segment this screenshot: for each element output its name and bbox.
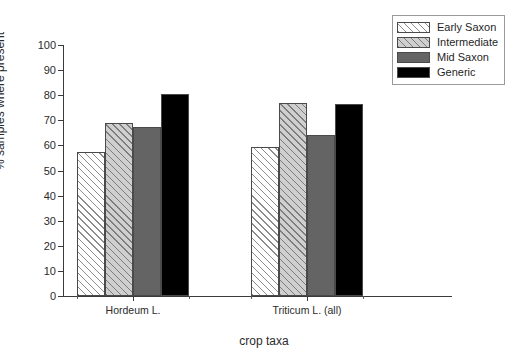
y-axis-title: % samples where present	[0, 32, 7, 170]
legend-swatch-generic	[397, 67, 430, 78]
x-axis-tick	[133, 296, 134, 301]
legend-item-generic: Generic	[397, 65, 498, 80]
bar-hordeum-l-early-saxon	[77, 152, 105, 296]
legend-swatch-early-saxon	[397, 22, 430, 33]
bar-triticum-l-all-early-saxon	[251, 147, 279, 296]
x-axis-minor-tick	[189, 296, 190, 299]
y-tick-label: 10	[44, 265, 56, 276]
x-axis-minor-tick	[77, 296, 78, 299]
legend-item-mid-saxon: Mid Saxon	[397, 50, 498, 65]
bar-hordeum-l-generic	[161, 94, 189, 296]
chart-legend: Early SaxonIntermediateMid SaxonGeneric	[392, 15, 505, 85]
y-tick-mark	[58, 296, 63, 297]
y-tick-mark	[58, 45, 63, 46]
x-axis-title: crop taxa	[0, 334, 528, 348]
legend-label: Intermediate	[437, 37, 498, 48]
x-axis-line	[63, 296, 452, 297]
y-tick-label: 40	[44, 190, 56, 201]
y-tick-mark	[58, 271, 63, 272]
legend-label: Generic	[437, 67, 476, 78]
bar-triticum-l-all-mid-saxon	[307, 135, 335, 296]
y-tick-label: 60	[44, 140, 56, 151]
bar-triticum-l-all-generic	[335, 104, 363, 296]
x-axis-category-label: Hordeum L.	[106, 304, 161, 316]
y-tick-mark	[58, 221, 63, 222]
legend-swatch-mid-saxon	[397, 52, 430, 63]
legend-item-early-saxon: Early Saxon	[397, 20, 498, 35]
x-axis-category-label: Triticum L. (all)	[272, 304, 341, 316]
bar-hordeum-l-intermediate	[105, 123, 133, 296]
y-tick-mark	[58, 95, 63, 96]
x-axis-minor-tick	[363, 296, 364, 299]
y-tick-mark	[58, 70, 63, 71]
legend-swatch-intermediate	[397, 37, 430, 48]
y-tick-label: 50	[44, 165, 56, 176]
y-tick-label: 100	[38, 40, 56, 51]
bar-triticum-l-all-intermediate	[279, 103, 307, 296]
y-tick-mark	[58, 145, 63, 146]
y-tick-mark	[58, 196, 63, 197]
legend-item-intermediate: Intermediate	[397, 35, 498, 50]
x-axis-minor-tick	[251, 296, 252, 299]
legend-label: Mid Saxon	[437, 52, 489, 63]
y-tick-mark	[58, 120, 63, 121]
y-tick-label: 80	[44, 90, 56, 101]
y-tick-label: 30	[44, 215, 56, 226]
y-tick-label: 70	[44, 115, 56, 126]
y-tick-label: 0	[50, 291, 56, 302]
bar-hordeum-l-mid-saxon	[133, 127, 161, 296]
y-tick-label: 20	[44, 240, 56, 251]
plot-area: 0102030405060708090100Hordeum L.Triticum…	[63, 45, 388, 296]
y-tick-mark	[58, 171, 63, 172]
legend-label: Early Saxon	[437, 22, 496, 33]
y-tick-mark	[58, 246, 63, 247]
x-axis-tick	[307, 296, 308, 301]
y-tick-label: 90	[44, 65, 56, 76]
chart-figure: % samples where present 0102030405060708…	[0, 0, 528, 364]
